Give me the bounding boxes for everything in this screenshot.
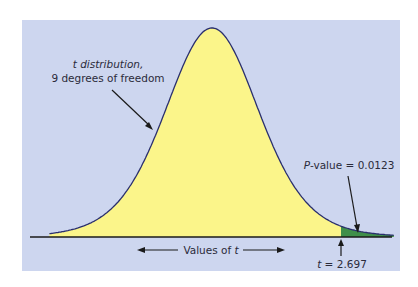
curve-label-line1: t distribution,	[73, 58, 144, 70]
t-distribution-figure: t distribution, 9 degrees of freedom P-v…	[0, 0, 418, 287]
tstat-label: t = 2.697	[317, 258, 367, 270]
curve-label-line2: 9 degrees of freedom	[51, 72, 164, 84]
pvalue-label: P-value = 0.0123	[304, 159, 395, 171]
axis-label: Values of t	[183, 244, 239, 256]
